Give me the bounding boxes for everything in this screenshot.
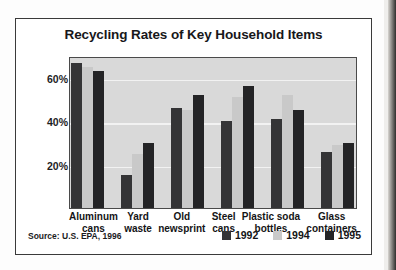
page-edge-shadow (388, 0, 396, 270)
bar-1994 (232, 97, 243, 208)
bar-1992 (321, 152, 332, 208)
y-axis-tick-label: 40% (47, 116, 68, 128)
screenshot-root: Recycling Rates of Key Household Items 2… (0, 0, 396, 270)
legend-swatch-icon (222, 231, 231, 240)
bar-1995 (93, 71, 104, 208)
legend-swatch-icon (325, 231, 334, 240)
chart-title: Recycling Rates of Key Household Items (16, 27, 371, 42)
source-note: Source: U.S. EPA, 1996 (28, 231, 121, 241)
bar-group (71, 58, 104, 208)
bar-group (321, 58, 354, 208)
figure-container: Recycling Rates of Key Household Items 2… (15, 18, 372, 255)
bar-1992 (71, 63, 82, 208)
y-axis-labels: 20%40%60% (30, 57, 68, 209)
bar-1994 (332, 145, 343, 208)
bar-group (221, 58, 254, 208)
bar-group (121, 58, 154, 208)
plot-area (69, 57, 357, 209)
legend-item: 1995 (325, 229, 361, 241)
bar-1995 (343, 143, 354, 208)
legend-label: 1992 (235, 229, 258, 241)
bar-1992 (221, 121, 232, 208)
legend-label: 1994 (286, 229, 309, 241)
legend-item: 1992 (222, 229, 258, 241)
legend-item: 1994 (273, 229, 309, 241)
bar-groups-layer (70, 58, 356, 208)
bar-group (171, 58, 204, 208)
y-axis-tick-label: 60% (47, 73, 68, 85)
bar-1992 (121, 175, 132, 208)
bar-1995 (143, 143, 154, 208)
chart-legend: 199219941995 (207, 229, 361, 241)
bar-1994 (182, 110, 193, 208)
bar-1994 (132, 154, 143, 208)
bar-1994 (82, 67, 93, 208)
bar-group (271, 58, 304, 208)
figure-footer: Source: U.S. EPA, 1996 199219941995 (16, 228, 371, 248)
bar-1995 (243, 86, 254, 208)
bar-1992 (271, 119, 282, 208)
bar-1994 (282, 95, 293, 208)
legend-label: 1995 (338, 229, 361, 241)
y-axis-tick-label: 20% (47, 160, 68, 172)
bar-1992 (171, 108, 182, 208)
bar-1995 (293, 110, 304, 208)
legend-swatch-icon (273, 231, 282, 240)
bar-1995 (193, 95, 204, 208)
